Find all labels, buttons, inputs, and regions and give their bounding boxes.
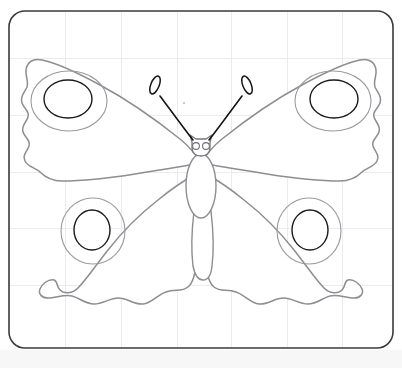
- thorax: [186, 154, 216, 218]
- butterfly-line-drawing: [0, 0, 402, 368]
- below-sheet-strip: [0, 350, 402, 368]
- lower-right-eyespot: [292, 210, 328, 250]
- right-eye: [203, 143, 210, 150]
- lower-left-eyespot: [74, 210, 110, 250]
- upper-right-eyespot: [310, 80, 358, 118]
- pencil-speck: [183, 102, 185, 104]
- image-canvas: [0, 0, 402, 368]
- left-eye: [193, 143, 200, 150]
- abdomen: [192, 211, 213, 280]
- upper-left-eyespot: [44, 80, 92, 118]
